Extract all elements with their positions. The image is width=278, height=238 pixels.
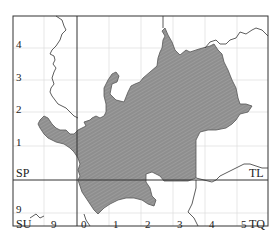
easting-label-3: 3: [177, 219, 183, 230]
shaded-region: [38, 28, 252, 214]
easting-label-4: 4: [209, 219, 215, 230]
grid-square-su: SU: [16, 218, 31, 230]
easting-label-9: 9: [51, 219, 57, 230]
northing-label-9: 9: [16, 204, 22, 215]
northing-label-3: 3: [16, 72, 22, 83]
easting-label-0: 0: [81, 219, 87, 230]
grid-square-sp: SP: [16, 167, 29, 179]
easting-label-2: 2: [145, 219, 151, 230]
northing-label-1: 1: [16, 137, 22, 148]
northing-label-4: 4: [16, 39, 22, 50]
grid-square-tq: TQ: [249, 218, 265, 230]
grid-square-tl: TL: [249, 167, 264, 179]
easting-label-1: 1: [113, 219, 119, 230]
grid-map: [0, 0, 278, 238]
easting-label-5: 5: [241, 219, 247, 230]
northing-label-2: 2: [16, 104, 22, 115]
